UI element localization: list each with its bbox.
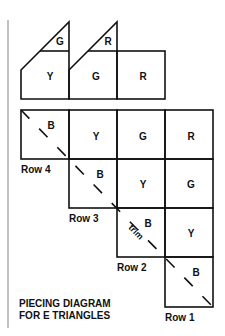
row4-label: Row 4 — [21, 164, 51, 175]
unit1-triangle-label: G — [56, 36, 64, 47]
row2-label: Row 2 — [117, 262, 147, 273]
row2-cell1: B — [144, 218, 151, 229]
caption-line2: FOR E TRIANGLES — [19, 310, 110, 321]
row1-label: Row 1 — [165, 312, 195, 323]
row3-cell3: G — [187, 179, 195, 190]
unit2-base-label: G — [92, 71, 100, 82]
unit1-base-label: Y — [47, 71, 54, 82]
unit2-outline — [69, 22, 117, 99]
caption-line1: PIECING DIAGRAM — [19, 298, 111, 309]
unit3-base-label: R — [139, 71, 147, 82]
row4-cell2: Y — [93, 131, 100, 142]
row3-cell2: Y — [140, 179, 147, 190]
unit2-triangle-label: R — [104, 36, 112, 47]
row4-cell3: G — [139, 131, 147, 142]
row3-cell1: B — [96, 169, 103, 180]
row1-cell1: B — [192, 267, 199, 278]
row2-cell2: Y — [188, 228, 195, 239]
unit1-outline — [21, 22, 69, 99]
piecing-diagram: G Y R G R B Y G R B Y G B Y B trim Row 4… — [0, 0, 225, 336]
trim-label: trim — [127, 222, 146, 241]
row3-label: Row 3 — [69, 213, 99, 224]
top-units — [21, 22, 165, 99]
row4-cell1: B — [47, 120, 54, 131]
row4-cell4: R — [187, 131, 195, 142]
